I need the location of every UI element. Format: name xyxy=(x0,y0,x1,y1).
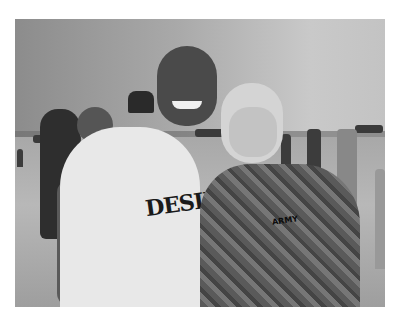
right-man-uniform xyxy=(200,164,360,307)
left-man-head xyxy=(157,46,217,126)
bystander xyxy=(281,134,291,168)
left-man-smile xyxy=(172,101,202,109)
person-with-hat xyxy=(128,91,154,113)
right-man-face xyxy=(229,107,277,157)
photograph: DESIRE ARMY xyxy=(15,19,385,307)
bystander xyxy=(375,169,385,269)
left-man-tshirt xyxy=(60,127,200,307)
helicopter xyxy=(355,125,383,133)
bystander xyxy=(17,149,23,167)
